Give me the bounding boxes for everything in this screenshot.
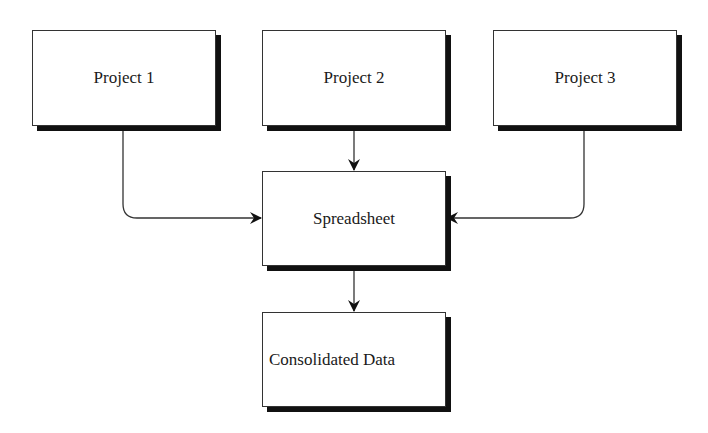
node-consolidated-data: Consolidated Data: [262, 312, 446, 407]
node-label: Consolidated Data: [269, 350, 395, 370]
edge-project1-spreadsheet: [123, 131, 261, 218]
node-label: Project 3: [555, 68, 616, 88]
node-project-1: Project 1: [32, 30, 216, 126]
node-label: Spreadsheet: [313, 209, 395, 229]
node-label: Project 1: [94, 68, 155, 88]
node-project-3: Project 3: [493, 30, 677, 126]
node-label: Project 2: [324, 68, 385, 88]
node-project-2: Project 2: [262, 30, 446, 126]
node-spreadsheet: Spreadsheet: [262, 171, 446, 266]
edge-project3-spreadsheet: [447, 131, 584, 218]
